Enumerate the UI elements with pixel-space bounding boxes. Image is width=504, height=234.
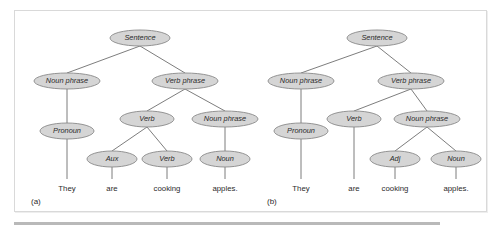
tree-edge <box>147 89 185 111</box>
node-label: Verb <box>159 154 174 163</box>
tree-node: Aux <box>87 151 137 167</box>
node-label: Noun <box>216 154 234 163</box>
tree-edge <box>395 127 427 151</box>
tree-edge <box>112 127 147 151</box>
terminal-word: cooking <box>154 184 181 193</box>
tree-node: Adj <box>370 151 420 167</box>
node-label: Adj <box>389 154 401 163</box>
terminal-word: apples. <box>212 184 237 193</box>
tree-edge <box>411 89 427 111</box>
node-label: Noun phrase <box>406 114 448 123</box>
parse-tree-diagram-a: SentenceNoun phraseVerb phrasePronounVer… <box>15 11 251 213</box>
tree-node: Noun phrase <box>268 73 334 89</box>
tree-edge <box>301 46 377 73</box>
figure-frame: SentenceNoun phraseVerb phrasePronounVer… <box>14 10 487 212</box>
terminal-word: apples. <box>443 184 468 193</box>
tree-edge <box>140 46 185 73</box>
tree-node: Noun phrase <box>394 111 460 127</box>
tree-node: Noun phrase <box>192 111 258 127</box>
tree-node: Sentence <box>347 30 407 46</box>
terminal-word: They <box>58 184 75 193</box>
node-label: Pronoun <box>53 126 81 135</box>
terminal-word: cooking <box>382 184 409 193</box>
node-label: Sentence <box>361 33 392 42</box>
tree-node: Verb phrase <box>152 73 218 89</box>
panel-caption-b: (b) <box>267 197 277 206</box>
tree-node: Noun <box>200 151 250 167</box>
terminal-word: are <box>106 184 117 193</box>
node-label: Noun phrase <box>46 76 88 85</box>
node-label: Aux <box>105 154 119 163</box>
tree-edge <box>185 89 225 111</box>
tree-edge <box>427 127 456 151</box>
node-label: Verb <box>139 114 154 123</box>
node-label: Noun phrase <box>204 114 246 123</box>
node-label: Noun <box>447 154 465 163</box>
node-label: Verb phrase <box>391 76 431 85</box>
terminal-word: are <box>348 184 359 193</box>
tree-edge <box>67 46 140 73</box>
parse-tree-diagram-b: SentenceNoun phraseVerb phrasePronounVer… <box>251 11 487 213</box>
terminal-word: They <box>292 184 309 193</box>
tree-node: Verb <box>120 111 174 127</box>
tree-edge <box>377 46 411 73</box>
node-label: Sentence <box>124 33 155 42</box>
tree-node: Verb phrase <box>378 73 444 89</box>
node-label: Verb phrase <box>165 76 205 85</box>
node-label: Noun phrase <box>280 76 322 85</box>
tree-node: Pronoun <box>40 123 94 139</box>
tree-node: Verb <box>142 151 192 167</box>
node-label: Verb <box>346 114 361 123</box>
tree-node: Noun phrase <box>34 73 100 89</box>
tree-edge <box>147 127 167 151</box>
bottom-horizontal-rule <box>14 222 440 225</box>
tree-node: Pronoun <box>274 123 328 139</box>
tree-node: Noun <box>431 151 481 167</box>
panel-caption-a: (a) <box>31 197 41 206</box>
tree-node: Sentence <box>110 30 170 46</box>
tree-node: Verb <box>327 111 381 127</box>
tree-edge <box>354 89 411 111</box>
parse-tree-svg-b: SentenceNoun phraseVerb phrasePronounVer… <box>251 11 487 213</box>
node-label: Pronoun <box>287 126 315 135</box>
parse-tree-svg-a: SentenceNoun phraseVerb phrasePronounVer… <box>15 11 251 213</box>
